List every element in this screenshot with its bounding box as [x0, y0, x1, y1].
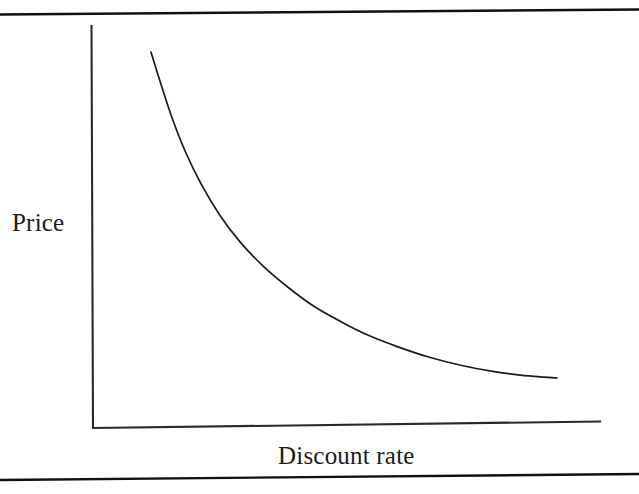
- y-axis-line: [92, 25, 94, 428]
- top-horizontal-rule: [0, 10, 639, 15]
- x-axis-line: [92, 422, 601, 429]
- x-axis-label: Discount rate: [278, 443, 415, 468]
- chart-canvas: [0, 0, 639, 494]
- y-axis-label: Price: [12, 210, 64, 235]
- bottom-horizontal-rule: [0, 474, 639, 480]
- price-discount-curve: [151, 52, 557, 378]
- figure-container: Price Discount rate: [0, 0, 639, 494]
- axes-group: [92, 25, 602, 428]
